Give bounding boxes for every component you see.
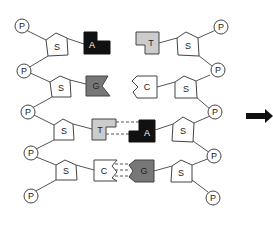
phosphate-icon: P: [207, 149, 221, 163]
dna-diagram: P P P P P S S S S A G T C: [0, 0, 273, 229]
svg-text:C: C: [101, 166, 108, 176]
svg-text:P: P: [215, 65, 221, 75]
svg-text:C: C: [144, 82, 151, 92]
svg-text:P: P: [212, 107, 218, 117]
sugar-icon: S: [177, 32, 199, 56]
svg-text:S: S: [178, 168, 184, 178]
svg-text:S: S: [61, 126, 67, 136]
sugar-icon: S: [171, 160, 192, 182]
svg-text:P: P: [28, 148, 34, 158]
svg-text:P: P: [19, 21, 25, 31]
svg-text:P: P: [218, 22, 224, 32]
phosphate-icon: P: [21, 105, 35, 119]
right-arrow-icon: [246, 109, 273, 123]
svg-text:P: P: [211, 151, 217, 161]
right-sugars: S S S S: [171, 32, 199, 182]
svg-text:G: G: [140, 166, 147, 176]
phosphate-icon: P: [206, 191, 220, 205]
base-guanine: G: [129, 160, 154, 182]
phosphate-icon: P: [211, 63, 225, 77]
base-adenine: A: [129, 120, 155, 142]
phosphate-icon: P: [17, 64, 31, 78]
svg-text:S: S: [58, 83, 64, 93]
left-sugars: S S S S: [46, 33, 77, 180]
base-adenine: A: [84, 32, 110, 54]
right-phosphates: P P P P P: [206, 20, 228, 205]
base-thymine: T: [136, 32, 159, 54]
left-phosphates: P P P P P: [15, 19, 38, 203]
base-cytosine: C: [94, 160, 117, 181]
base-guanine: G: [86, 76, 110, 96]
phosphate-icon: P: [15, 19, 29, 33]
svg-text:P: P: [28, 191, 34, 201]
svg-text:P: P: [21, 66, 27, 76]
svg-text:P: P: [25, 107, 31, 117]
right-bases: T C A G: [129, 32, 159, 182]
svg-text:S: S: [54, 42, 60, 52]
phosphate-icon: P: [208, 105, 222, 119]
base-thymine: T: [92, 119, 116, 140]
phosphate-icon: P: [24, 146, 38, 160]
svg-text:A: A: [89, 40, 95, 50]
sugar-icon: S: [46, 33, 68, 56]
svg-text:A: A: [144, 128, 150, 138]
sugar-icon: S: [175, 76, 197, 98]
base-cytosine: C: [132, 76, 157, 98]
sugar-icon: S: [50, 76, 71, 97]
sugar-icon: S: [56, 160, 77, 180]
phosphate-icon: P: [214, 20, 228, 34]
left-bases: A G T C: [84, 32, 117, 181]
sugar-icon: S: [172, 117, 194, 142]
phosphate-icon: P: [24, 189, 38, 203]
svg-text:T: T: [97, 125, 103, 135]
svg-text:S: S: [180, 126, 186, 136]
svg-text:P: P: [210, 193, 216, 203]
svg-text:S: S: [185, 41, 191, 51]
svg-text:S: S: [63, 166, 69, 176]
svg-text:G: G: [92, 81, 99, 91]
svg-text:T: T: [148, 38, 154, 48]
svg-text:S: S: [183, 84, 189, 94]
sugar-icon: S: [54, 119, 74, 140]
